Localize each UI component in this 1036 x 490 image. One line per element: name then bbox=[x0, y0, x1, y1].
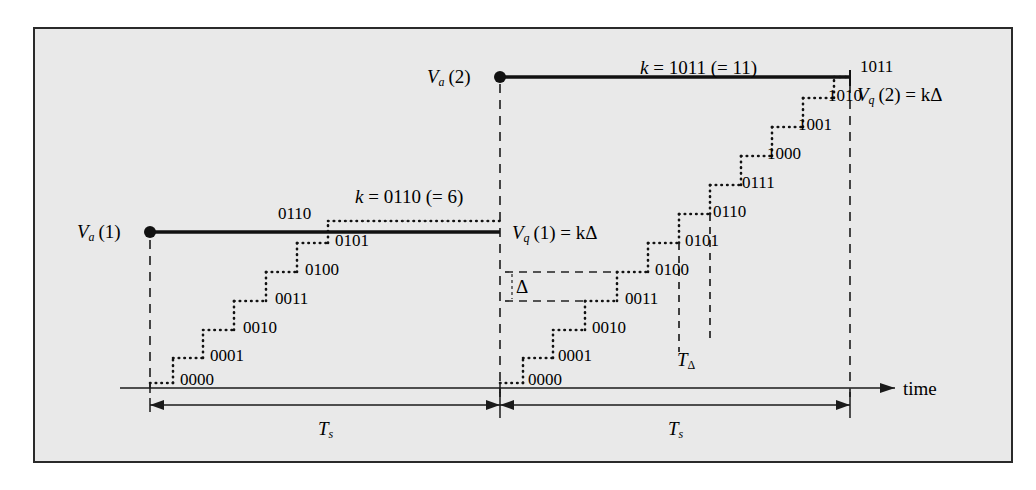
va2-label: Va (2) bbox=[427, 67, 471, 88]
code-label-p1-0000: 0000 bbox=[180, 371, 214, 388]
code-label-p1-0101: 0101 bbox=[335, 232, 369, 249]
vq1-label: Vq (1) = kΔ bbox=[512, 223, 598, 244]
counter-staircase-period-1 bbox=[150, 221, 500, 383]
code-label-p2-1001: 1001 bbox=[798, 116, 832, 133]
code-label-p1-0011: 0011 bbox=[275, 290, 308, 307]
code-label-p2-1000: 1000 bbox=[767, 145, 801, 162]
figure-canvas: Va (1) Va (2) Vq (1) = kΔ Vq (2) = kΔ kk… bbox=[0, 0, 1036, 490]
code-label-p1-0001: 0001 bbox=[210, 347, 244, 364]
time-axis-label: time bbox=[903, 379, 937, 398]
code-label-p1-0110: 0110 bbox=[278, 205, 311, 222]
k-period-1-label: kk = 0110 (= 6) = 0110 (= 6) bbox=[355, 187, 463, 206]
code-label-p2-0111: 0111 bbox=[742, 174, 775, 191]
code-label-p2-1010: 1010 bbox=[828, 87, 862, 104]
vq2-label: Vq (2) = kΔ bbox=[857, 85, 943, 106]
ts-period-2-label: Ts bbox=[668, 419, 683, 440]
code-label-p2-0110: 0110 bbox=[713, 203, 746, 220]
time-axis bbox=[120, 383, 895, 393]
code-label-p1-0100: 0100 bbox=[305, 261, 339, 278]
code-label-p2-0100: 0100 bbox=[655, 261, 689, 278]
sample-boundary-lines bbox=[150, 84, 850, 400]
k-period-2-label: k = 1011 (= 11) bbox=[640, 58, 757, 77]
code-label-p2-0000: 0000 bbox=[528, 371, 562, 388]
code-label-p2-1011: 1011 bbox=[860, 58, 893, 75]
code-label-p1-0010: 0010 bbox=[243, 319, 277, 336]
t-delta-label: TΔ bbox=[677, 350, 695, 371]
va1-level-line bbox=[144, 226, 500, 238]
code-label-p2-0010: 0010 bbox=[592, 319, 626, 336]
delta-label: Δ bbox=[516, 277, 528, 296]
ts-period-1-label: Ts bbox=[318, 419, 333, 440]
va1-label: Va (1) bbox=[77, 222, 121, 243]
code-label-p2-0101: 0101 bbox=[685, 232, 719, 249]
ts-period-2-arrow bbox=[500, 392, 850, 418]
code-label-p2-0011: 0011 bbox=[625, 290, 658, 307]
code-label-p2-0001: 0001 bbox=[558, 347, 592, 364]
ts-period-1-arrow bbox=[150, 392, 500, 418]
